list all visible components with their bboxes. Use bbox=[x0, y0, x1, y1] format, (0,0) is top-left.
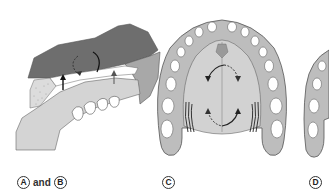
panel-c-label: C bbox=[162, 174, 175, 190]
panel-ab-illustration bbox=[16, 24, 160, 150]
label-and-text: and bbox=[33, 177, 51, 188]
panel-c-illustration bbox=[158, 20, 287, 155]
panel-ab-label: A and B bbox=[17, 174, 67, 190]
label-c-badge: C bbox=[162, 176, 175, 189]
panel-d-label: D bbox=[309, 174, 322, 190]
diagram-artwork bbox=[0, 0, 329, 194]
panel-d-illustration bbox=[304, 50, 329, 157]
label-d-badge: D bbox=[309, 176, 322, 189]
label-a-badge: A bbox=[17, 176, 30, 189]
palate-diagram: A and B C D bbox=[0, 0, 329, 194]
label-b-badge: B bbox=[54, 176, 67, 189]
